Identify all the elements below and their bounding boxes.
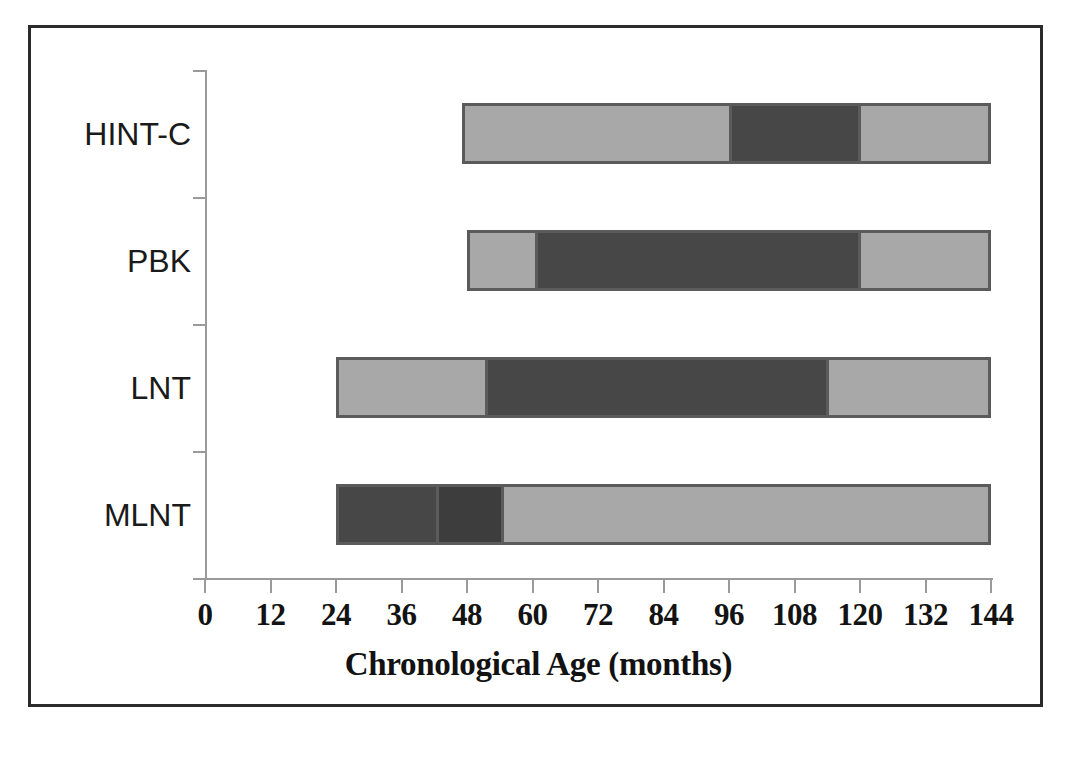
x-tick-132	[925, 580, 927, 593]
bar-segment-mlnt-2[interactable]	[436, 487, 501, 542]
bar-segment-pbk-2[interactable]	[535, 233, 859, 288]
x-tick-label-96: 96	[714, 597, 744, 633]
x-tick-60	[532, 580, 534, 593]
bar-segment-mlnt-3[interactable]	[501, 487, 988, 542]
bar-segment-lnt-2[interactable]	[485, 360, 826, 415]
y-tick-3	[193, 451, 207, 453]
x-tick-96	[728, 580, 730, 593]
scan-margin	[0, 712, 1074, 763]
y-tick-1	[193, 197, 207, 199]
x-tick-label-132: 132	[903, 597, 948, 633]
plot-area: 01224364860728496108120132144 HINT-CPBKL…	[31, 28, 1046, 710]
bar-segment-mlnt-1[interactable]	[339, 487, 436, 542]
x-tick-108	[794, 580, 796, 593]
bar-segment-hint-c-3[interactable]	[858, 106, 988, 161]
x-tick-36	[401, 580, 403, 593]
x-tick-label-144: 144	[969, 597, 1014, 633]
bar-row-mlnt	[31, 484, 1046, 545]
bar-segment-lnt-3[interactable]	[826, 360, 988, 415]
x-tick-label-120: 120	[838, 597, 883, 633]
x-tick-84	[663, 580, 665, 593]
x-tick-label-0: 0	[198, 597, 213, 633]
x-tick-label-84: 84	[649, 597, 679, 633]
x-tick-48	[466, 580, 468, 593]
x-tick-12	[270, 580, 272, 593]
x-tick-label-108: 108	[772, 597, 817, 633]
x-tick-label-36: 36	[387, 597, 417, 633]
bar-segment-pbk-1[interactable]	[470, 233, 535, 288]
bar-lnt[interactable]	[336, 357, 991, 418]
bar-segment-hint-c-1[interactable]	[465, 106, 729, 161]
x-tick-label-60: 60	[518, 597, 548, 633]
y-tick-0	[193, 70, 207, 72]
bar-row-pbk	[31, 230, 1046, 291]
x-axis-line	[205, 578, 993, 580]
x-tick-24	[335, 580, 337, 593]
bar-pbk[interactable]	[467, 230, 991, 291]
bar-hint-c[interactable]	[462, 103, 991, 164]
x-tick-label-72: 72	[583, 597, 613, 633]
x-axis-title: Chronological Age (months)	[31, 646, 1046, 683]
bar-row-hint-c	[31, 103, 1046, 164]
x-tick-label-24: 24	[321, 597, 351, 633]
bar-segment-hint-c-2[interactable]	[729, 106, 859, 161]
x-tick-120	[859, 580, 861, 593]
x-tick-label-48: 48	[452, 597, 482, 633]
x-tick-0	[204, 580, 206, 593]
bar-segment-pbk-3[interactable]	[858, 233, 988, 288]
x-tick-label-12: 12	[256, 597, 286, 633]
bar-mlnt[interactable]	[336, 484, 991, 545]
bar-segment-lnt-1[interactable]	[339, 360, 485, 415]
x-tick-144	[990, 580, 992, 593]
bar-row-lnt	[31, 357, 1046, 418]
x-tick-72	[597, 580, 599, 593]
figure-frame: 01224364860728496108120132144 HINT-CPBKL…	[28, 25, 1043, 707]
y-tick-2	[193, 324, 207, 326]
